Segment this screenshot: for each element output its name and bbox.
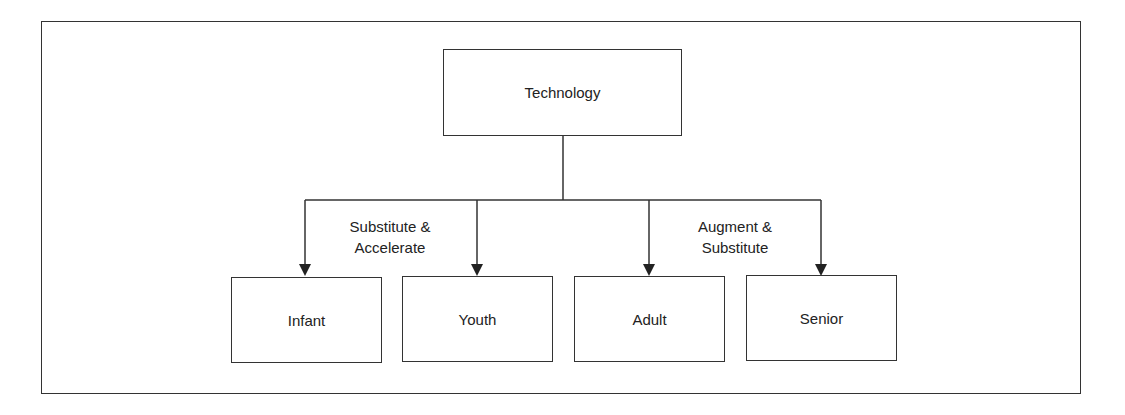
child-node-adult: Adult xyxy=(574,276,725,362)
child-node-label: Adult xyxy=(632,311,666,328)
group-label-substitute-accelerate: Substitute & Accelerate xyxy=(319,216,461,258)
group-label-augment-substitute: Augment & Substitute xyxy=(664,216,806,258)
group-label-line: Augment & xyxy=(664,216,806,237)
child-node-label: Infant xyxy=(288,312,326,329)
group-label-line: Substitute xyxy=(664,237,806,258)
group-label-line: Substitute & xyxy=(319,216,461,237)
arrow-down-icon xyxy=(299,264,311,276)
child-node-label: Senior xyxy=(800,310,843,327)
group-label-line: Accelerate xyxy=(319,237,461,258)
arrow-down-icon xyxy=(471,264,483,276)
root-node-technology: Technology xyxy=(443,49,682,136)
child-node-youth: Youth xyxy=(402,276,553,362)
root-node-label: Technology xyxy=(525,84,601,101)
child-node-label: Youth xyxy=(459,311,497,328)
child-node-infant: Infant xyxy=(231,277,382,363)
arrow-down-icon xyxy=(643,264,655,276)
child-node-senior: Senior xyxy=(746,275,897,361)
